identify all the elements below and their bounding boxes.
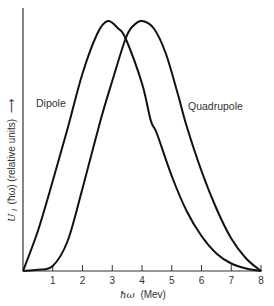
x-tick-label: 4 <box>139 275 145 286</box>
x-tick-label: 6 <box>199 275 205 286</box>
y-axis-symbol: U <box>6 213 17 222</box>
x-tick-label: 5 <box>169 275 175 286</box>
x-tick-label: 3 <box>109 275 115 286</box>
y-axis-text: (ħω) (relative units) <box>6 119 17 205</box>
dipole-label: Dipole <box>36 97 66 109</box>
y-axis-subscript: l <box>11 209 18 211</box>
x-axis-symbol: ħω <box>120 289 135 300</box>
quadrupole-label: Quadrupole <box>188 100 243 112</box>
y-axis-title: U l (ħω) (relative units) ⟶ <box>6 99 19 222</box>
x-tick-label: 1 <box>50 275 56 286</box>
chart: 12345678 Dipole Quadrupole ħω (Mev) U l … <box>0 0 274 306</box>
quadrupole-curve <box>23 21 261 271</box>
x-axis-unit: (Mev) <box>140 289 166 300</box>
x-tick-label: 7 <box>228 275 234 286</box>
x-axis-title: ħω (Mev) <box>120 289 166 300</box>
x-tick-label: 8 <box>258 275 264 286</box>
x-ticks: 12345678 <box>50 265 264 286</box>
dipole-curve <box>23 21 261 271</box>
y-axis-arrow-icon: ⟶ <box>6 99 17 113</box>
x-tick-label: 2 <box>80 275 86 286</box>
